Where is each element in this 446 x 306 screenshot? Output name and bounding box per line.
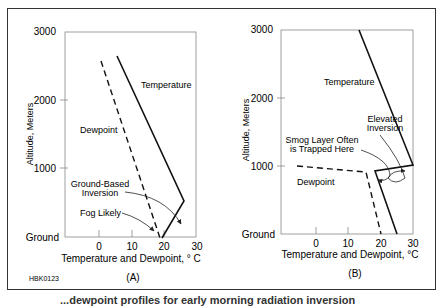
panel-a-y-axis-title: Altitude, Meters (25, 102, 35, 165)
panel-a-label: (A) (126, 272, 139, 283)
panel-a-ytick-2000: 2000 (34, 95, 57, 106)
panel-b-xtick-20: 20 (375, 238, 387, 249)
panel-a-ytick-1000: 1000 (34, 163, 57, 174)
panel-a-xtick-0: 0 (96, 241, 102, 252)
panel-b-ytick-2000: 2000 (251, 93, 274, 104)
figure-id: HBK0123 (29, 275, 59, 282)
panel-a-x-axis-title: Temperature and Dewpoint, ° C (61, 253, 201, 264)
panel-b-dewpoint-label: Dewpoint (297, 177, 335, 187)
panel-b-xtick-30: 30 (407, 238, 419, 249)
panel-a-chart: 3000 2000 1000 Ground Altitude, Meters 0… (25, 26, 203, 283)
panel-a-inversion-label-2: Inversion (82, 188, 119, 198)
panel-a-ytick-ground: Ground (26, 232, 59, 243)
panel-b-smog-label-2: is Trapped Here (290, 144, 354, 154)
panel-b-y-axis-title: Altitude, Meters (241, 98, 251, 161)
panel-b-x-axis-title: Temperature and Dewpoint, °C (282, 249, 419, 260)
panel-b-elevated-arrow (380, 135, 405, 182)
panel-b-ytick-ground: Ground (242, 229, 275, 240)
panel-b-xtick-10: 10 (342, 238, 354, 249)
panel-b-ytick-3000: 3000 (251, 24, 274, 35)
panel-a-xtick-10: 10 (126, 241, 138, 252)
panel-b-temperature-label: Temperature (324, 77, 375, 87)
panel-a-ytick-3000: 3000 (34, 26, 57, 37)
panel-b-elevated-label-2: Inversion (367, 123, 404, 133)
panel-a-xtick-20: 20 (158, 241, 170, 252)
panel-a-temperature-label: Temperature (141, 80, 192, 90)
panel-a-xtick-30: 30 (191, 241, 203, 252)
panel-b-label: (B) (348, 268, 361, 279)
panel-b-ytick-1000: 1000 (251, 161, 274, 172)
panel-a-fog-label: Fog Likely (80, 208, 122, 218)
panel-a-fog-arrow (122, 213, 154, 231)
panel-b-xtick-0: 0 (313, 238, 319, 249)
figure-caption: ...dewpoint profiles for early morning r… (60, 294, 355, 306)
panel-b-chart: 3000 2000 1000 Ground Altitude, Meters 0… (241, 24, 419, 279)
panel-a-dewpoint-label: Dewpoint (80, 125, 118, 135)
panel-b-smog-arrow (361, 150, 390, 181)
